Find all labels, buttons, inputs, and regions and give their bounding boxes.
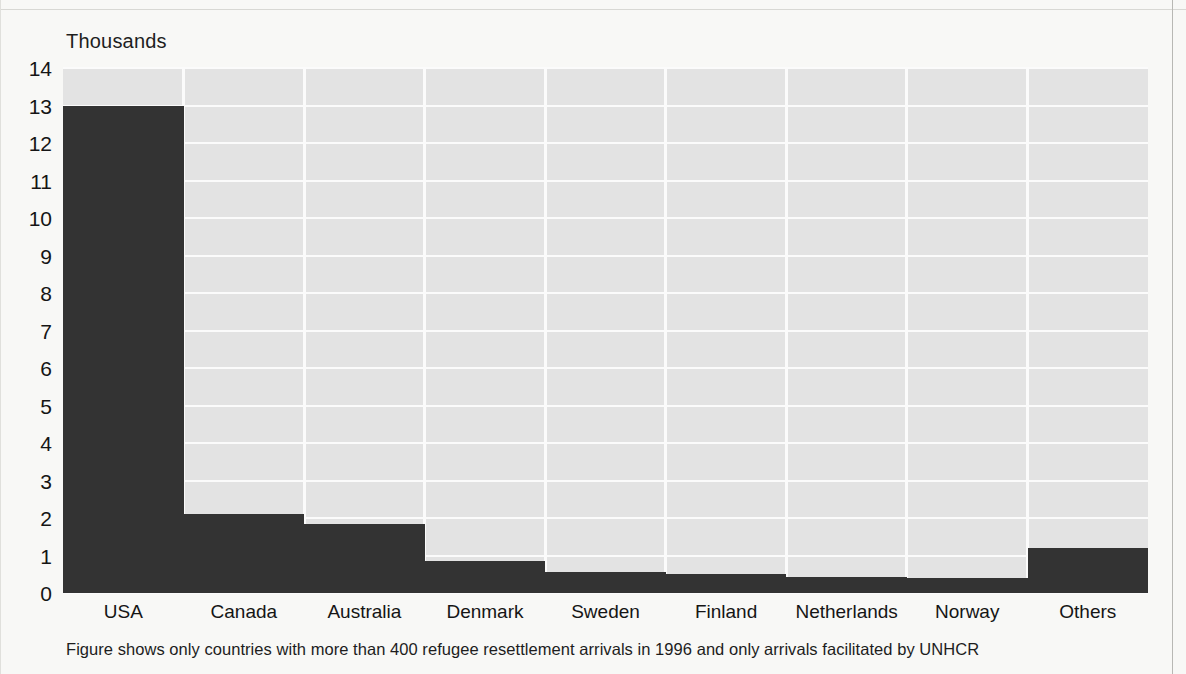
bar[interactable]: [786, 577, 907, 593]
bar-column[interactable]: [304, 68, 425, 593]
bar[interactable]: [545, 572, 666, 593]
y-axis-tick-label: 14: [0, 58, 52, 79]
x-axis-tick-label: Sweden: [545, 601, 666, 623]
x-axis-tick-label: Canada: [184, 601, 305, 623]
bar-column[interactable]: [666, 68, 787, 593]
y-axis-tick-label: 5: [0, 395, 52, 416]
bar[interactable]: [1028, 548, 1149, 593]
x-axis-tick-label: Others: [1028, 601, 1149, 623]
figure-footnote: Figure shows only countries with more th…: [66, 640, 979, 659]
bar[interactable]: [63, 106, 184, 594]
bar-column[interactable]: [425, 68, 546, 593]
bar-column[interactable]: [1028, 68, 1149, 593]
plot-area: [63, 68, 1148, 593]
y-axis-tick-labels: 01234567891011121314: [0, 68, 52, 593]
x-axis-tick-label: Netherlands: [786, 601, 907, 623]
y-axis-tick-label: 12: [0, 133, 52, 154]
y-axis-tick-label: 3: [0, 470, 52, 491]
bar-chart-figure: Thousands 01234567891011121314 USACanada…: [0, 0, 1186, 674]
y-axis-unit-label: Thousands: [66, 30, 167, 53]
x-axis-tick-labels: USACanadaAustraliaDenmarkSwedenFinlandNe…: [63, 601, 1148, 623]
bar-series: [63, 68, 1148, 593]
bar[interactable]: [666, 574, 787, 594]
x-axis-tick-label: Norway: [907, 601, 1028, 623]
x-axis-tick-label: Finland: [666, 601, 787, 623]
y-axis-tick-label: 1: [0, 545, 52, 566]
bar-column[interactable]: [545, 68, 666, 593]
bar-column[interactable]: [907, 68, 1028, 593]
bar[interactable]: [425, 561, 546, 593]
y-axis-tick-label: 4: [0, 433, 52, 454]
y-axis-tick-label: 10: [0, 208, 52, 229]
bar[interactable]: [184, 514, 305, 593]
x-axis-tick-label: Denmark: [425, 601, 546, 623]
bar[interactable]: [304, 524, 425, 593]
x-axis-tick-label: Australia: [304, 601, 425, 623]
bar-column[interactable]: [184, 68, 305, 593]
bar-column[interactable]: [63, 68, 184, 593]
page-background: Thousands 01234567891011121314 USACanada…: [0, 0, 1186, 674]
bar[interactable]: [907, 578, 1028, 593]
y-axis-tick-label: 0: [0, 583, 52, 604]
y-axis-tick-label: 13: [0, 95, 52, 116]
y-axis-tick-label: 9: [0, 245, 52, 266]
bar-column[interactable]: [786, 68, 907, 593]
y-axis-tick-label: 2: [0, 508, 52, 529]
y-axis-tick-label: 7: [0, 320, 52, 341]
y-axis-tick-label: 8: [0, 283, 52, 304]
y-axis-tick-label: 11: [0, 170, 52, 191]
y-axis-tick-label: 6: [0, 358, 52, 379]
x-axis-tick-label: USA: [63, 601, 184, 623]
